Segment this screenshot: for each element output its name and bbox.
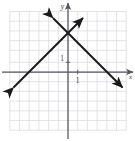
y-tick-label-one: 1: [60, 54, 64, 63]
coordinate-plane-figure: y x 1 1: [0, 0, 135, 141]
graph-canvas: y x 1 1: [0, 0, 135, 141]
axes: [2, 3, 133, 139]
y-axis-label: y: [60, 2, 65, 11]
x-axis-label: x: [128, 73, 133, 81]
x-tick-label-one: 1: [76, 76, 80, 85]
